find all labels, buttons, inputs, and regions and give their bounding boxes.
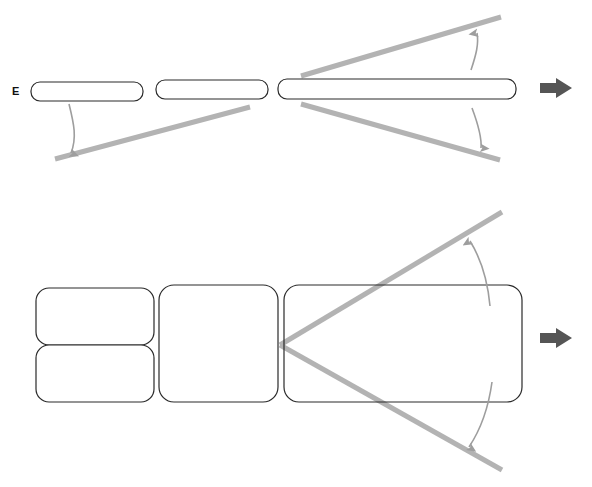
front-view-row <box>36 285 522 402</box>
bottom-ray-lower <box>280 345 502 470</box>
edge-view-label: E <box>12 86 20 97</box>
top-right-upper-tilt-arc <box>471 33 478 70</box>
top-ray-left-lower <box>55 107 250 159</box>
top-ray-right-upper <box>301 17 501 76</box>
bottom-panel-2[interactable] <box>159 285 278 402</box>
bottom-ray-group <box>280 212 502 470</box>
top-panel-1[interactable] <box>31 82 143 101</box>
top-ray-right-lower <box>301 104 500 160</box>
diagram-canvas <box>0 0 592 487</box>
bottom-panel-1a[interactable] <box>36 288 154 345</box>
edge-view-row <box>31 79 516 101</box>
bottom-ray-upper <box>280 212 502 345</box>
bottom-panel-1b[interactable] <box>36 345 154 402</box>
bottom-panel-3[interactable] <box>284 285 522 402</box>
bottom-flow-arrow <box>540 328 572 348</box>
bottom-right-upper-tilt-arc <box>470 241 490 306</box>
flow-arrow-group <box>540 78 572 348</box>
top-right-lower-tilt-arc <box>472 108 481 148</box>
top-panel-3[interactable] <box>278 79 516 99</box>
top-left-tilt-arc <box>69 104 74 153</box>
bottom-right-lower-tilt-arc <box>469 382 492 447</box>
top-panel-2[interactable] <box>156 80 268 99</box>
top-flow-arrow <box>540 78 572 98</box>
diagram-root: E <box>0 0 592 487</box>
